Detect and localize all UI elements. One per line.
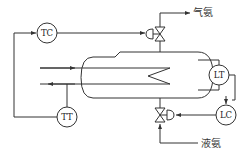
gas-control-valve [146,27,165,41]
tt-instrument: TT [57,107,77,127]
lt-label: LT [214,70,225,80]
gas-ammonia-label: 气氨 [193,6,213,18]
tc-label: TC [41,28,53,38]
liquid-inlet-line [160,98,198,143]
liquid-ammonia-label: 液氨 [201,137,221,149]
liquid-control-valve [155,108,174,122]
control-diagram: 气氨 TC TT LT LC 液氨 [0,0,247,155]
tt-label: TT [61,112,73,122]
lc-instrument: LC [216,105,236,125]
vessel [81,52,213,98]
coil [40,68,170,84]
lc-label: LC [220,110,232,120]
lt-instrument: LT [209,65,229,85]
tc-instrument: TC [37,23,57,43]
gas-outlet-line [160,13,190,52]
temperature-signal-lines [14,33,145,117]
